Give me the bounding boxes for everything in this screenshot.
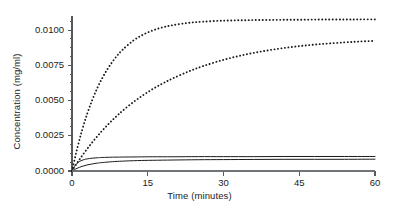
data-series-group	[72, 19, 375, 171]
axes-group	[68, 16, 376, 176]
y-tick-label: 0.0075	[0, 59, 64, 70]
chart-figure: Concentration (mg/ml) Time (minutes) 0.0…	[0, 0, 399, 212]
y-tick-label: 0.0025	[0, 129, 64, 140]
y-tick-label: 0.0100	[0, 24, 64, 35]
x-axis-title: Time (minutes)	[0, 190, 399, 201]
y-tick-label: 0.0000	[0, 165, 64, 176]
y-tick-label: 0.0050	[0, 94, 64, 105]
x-tick-label: 60	[355, 177, 395, 188]
x-tick-label: 15	[128, 177, 168, 188]
x-tick-label: 45	[279, 177, 319, 188]
series-solid-upper	[72, 156, 375, 171]
series-dotted-slow	[72, 41, 375, 171]
x-tick-label: 0	[52, 177, 92, 188]
x-tick-label: 30	[204, 177, 244, 188]
series-solid-lower	[72, 159, 375, 171]
series-dotted-fast	[72, 19, 375, 171]
